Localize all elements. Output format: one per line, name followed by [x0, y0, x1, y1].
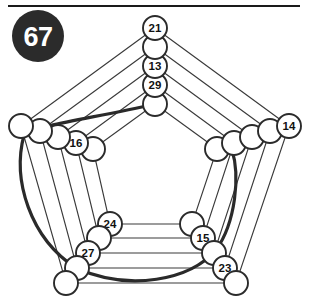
node-label: 14: [283, 120, 296, 132]
graph-node[interactable]: [54, 271, 78, 295]
figure-root: 29 13 21 16: [0, 0, 310, 305]
node-label: 13: [149, 60, 162, 72]
node-label: 21: [149, 22, 162, 34]
figure-number-badge: 67: [12, 10, 64, 62]
graph-node[interactable]: [9, 114, 33, 138]
badge-label: 67: [23, 22, 52, 52]
pentagon-edge-ring-4: [93, 104, 217, 224]
node-label: 29: [149, 79, 162, 91]
node-group-upper-right: 14: [205, 114, 301, 161]
node-label: 16: [70, 137, 83, 149]
graph-node[interactable]: [224, 271, 248, 295]
node-group-top: 29 13 21: [143, 16, 167, 116]
node-group-upper-left: 16: [9, 114, 105, 161]
pentagon-graph-figure: 29 13 21 16: [0, 0, 310, 305]
